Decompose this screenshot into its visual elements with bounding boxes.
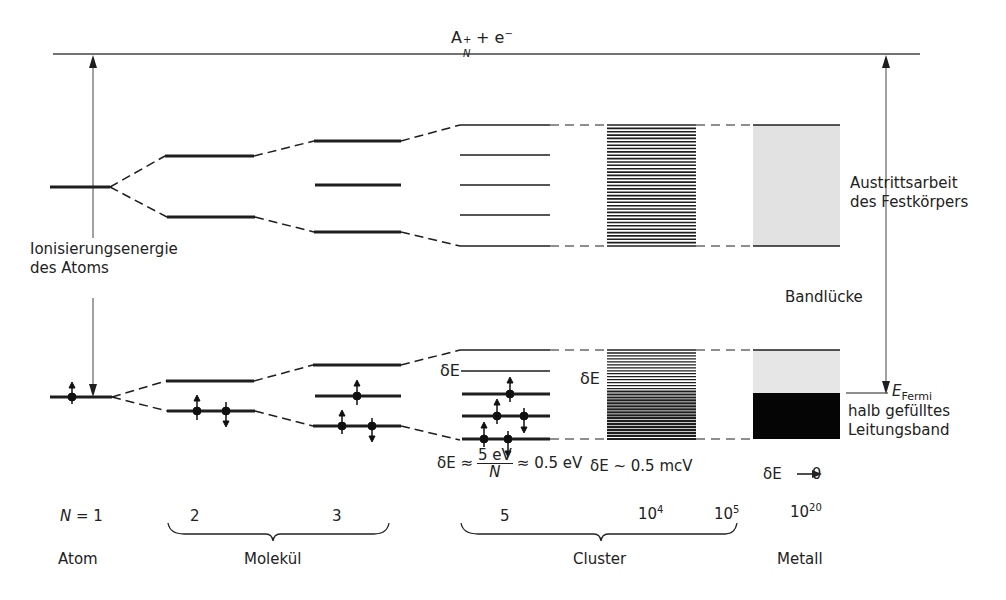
n-value-5: 5 — [500, 507, 510, 526]
cluster-lower-band — [607, 350, 696, 439]
ionization-energy-arrow — [89, 55, 97, 397]
category-molecule: Molekül — [244, 550, 301, 569]
ionization-energy-label: Ionisierungsenergie des Atoms — [30, 240, 178, 278]
n-value-2: 2 — [190, 507, 200, 526]
metal-filled-conduction-band — [753, 393, 840, 439]
n-value-1e5: 105 — [714, 505, 739, 524]
category-metal: Metall — [777, 550, 823, 569]
molecule-brace — [168, 523, 389, 541]
fermi-level-label: EFermi — [892, 382, 932, 401]
category-atom: Atom — [58, 550, 98, 569]
work-function-arrow — [882, 55, 890, 394]
cluster-spacing-formula: δE ≈ 5 eVN ≈ 0.5 eV — [437, 447, 582, 480]
n-value-1e4: 104 — [638, 505, 663, 524]
n-value-1e20: 1020 — [790, 503, 822, 522]
cluster-upper-band — [607, 125, 696, 246]
large-cluster-spacing-formula: δE ~ 0.5 mcV — [590, 457, 693, 476]
n-value-3: 3 — [332, 507, 342, 526]
category-cluster: Cluster — [573, 550, 626, 569]
metal-empty-conduction-band — [753, 350, 840, 393]
vacuum-level-label: A+N + e− — [451, 28, 513, 47]
electrons — [68, 377, 528, 457]
cluster-delta-e-large: δE — [580, 369, 600, 388]
metal-upper-band — [753, 125, 840, 246]
metal-spacing-formula: δE0 — [763, 465, 821, 484]
half-filled-band-label: halb gefülltes Leitungsband — [848, 402, 950, 440]
n-value-1: N = 1 — [60, 507, 103, 526]
band-gap-label: Bandlücke — [785, 288, 863, 307]
cluster-delta-e-small: δE — [440, 361, 460, 380]
work-function-label: Austrittsarbeit des Festkörpers — [850, 174, 968, 212]
